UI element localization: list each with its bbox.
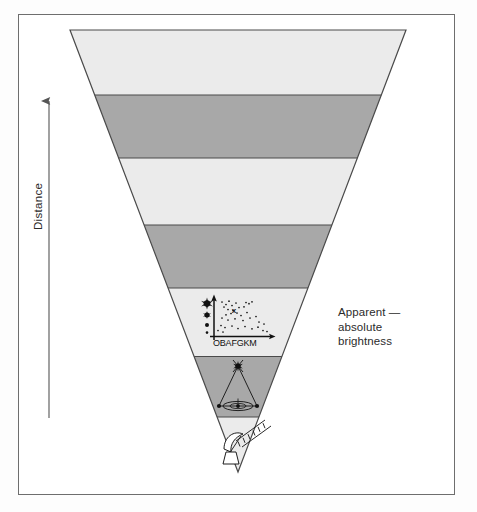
star-marker-small: [205, 323, 209, 327]
band-2: [60, 158, 420, 226]
spectral-class-sequence-label: OBAFGKM: [213, 338, 257, 348]
star-marker-tiny: [206, 331, 209, 334]
triangle-bands: [60, 28, 420, 477]
band-0: [60, 28, 420, 96]
band-1: [60, 95, 420, 159]
band-3: [60, 225, 420, 289]
distance-axis-label: Distance: [31, 183, 46, 230]
apparent-absolute-brightness-label: Apparent — absolute brightness: [338, 305, 400, 349]
diagram-canvas: x: [0, 0, 477, 512]
sun-marker: [236, 404, 240, 408]
earth-position-a: [217, 404, 221, 408]
earth-position-b: [255, 404, 259, 408]
hr-sun-marker: x: [232, 306, 237, 315]
telescope-pedestal: [223, 452, 239, 464]
distance-ladder-figure: x: [0, 0, 477, 512]
